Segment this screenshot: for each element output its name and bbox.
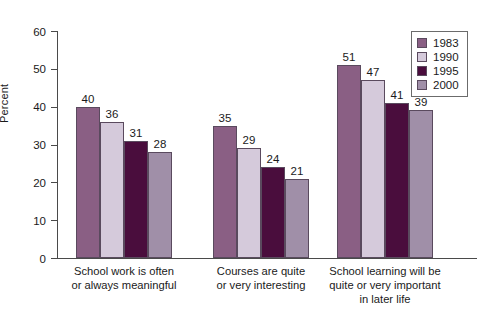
bar-rect <box>285 179 309 258</box>
bar-rect <box>124 141 148 258</box>
bar-2000[interactable]: 21 <box>285 31 309 258</box>
bar-rect <box>385 103 409 258</box>
legend-item-1995[interactable]: 1995 <box>417 64 459 78</box>
bar-rect <box>100 122 124 258</box>
bar-group: 35292421 <box>213 31 309 258</box>
bar-1983[interactable]: 40 <box>76 31 100 258</box>
bar-1995[interactable]: 24 <box>261 31 285 258</box>
y-tick-label: 50 <box>33 63 46 75</box>
y-tick-label: 10 <box>33 215 46 227</box>
bar-1990[interactable]: 47 <box>361 31 385 258</box>
category-label: School learning will bequite or very imp… <box>295 264 475 306</box>
bar-rect <box>76 107 100 258</box>
bar-value-label: 40 <box>82 93 95 105</box>
bar-value-label: 24 <box>267 153 280 165</box>
bar-1995[interactable]: 31 <box>124 31 148 258</box>
legend-item-2000[interactable]: 2000 <box>417 78 459 92</box>
legend-label: 1995 <box>433 65 459 77</box>
bar-value-label: 28 <box>154 138 167 150</box>
legend-label: 2000 <box>433 79 459 91</box>
bar-group: 40363128 <box>76 31 172 258</box>
bar-value-label: 35 <box>219 112 232 124</box>
bar-1983[interactable]: 35 <box>213 31 237 258</box>
y-tick-label: 0 <box>40 253 46 265</box>
x-axis-line <box>57 258 477 259</box>
bar-rect <box>409 110 433 258</box>
y-tick-label: 60 <box>33 26 46 38</box>
bar-1983[interactable]: 51 <box>337 31 361 258</box>
bar-2000[interactable]: 28 <box>148 31 172 258</box>
legend-label: 1983 <box>433 37 459 49</box>
bar-rect <box>237 148 261 258</box>
y-tick-label: 20 <box>33 177 46 189</box>
bar-rect <box>148 152 172 258</box>
legend-label: 1990 <box>433 51 459 63</box>
legend-swatch-icon <box>417 66 427 76</box>
y-axis-title: Percent <box>0 84 10 123</box>
bar-value-label: 39 <box>415 96 428 108</box>
bar-chart: Percent 6050403020100 403631283529242151… <box>0 0 494 321</box>
bar-value-label: 29 <box>243 134 256 146</box>
bar-1995[interactable]: 41 <box>385 31 409 258</box>
category-label-line: School learning will be <box>295 264 475 278</box>
legend-item-1990[interactable]: 1990 <box>417 50 459 64</box>
bar-value-label: 47 <box>367 66 380 78</box>
bar-value-label: 41 <box>391 89 404 101</box>
bar-value-label: 51 <box>343 51 356 63</box>
y-tick-label: 30 <box>33 139 46 151</box>
bar-value-label: 31 <box>130 127 143 139</box>
legend-swatch-icon <box>417 52 427 62</box>
bar-rect <box>361 80 385 258</box>
y-tick-label: 40 <box>33 101 46 113</box>
legend: 1983199019952000 <box>411 31 468 97</box>
bar-value-label: 21 <box>291 165 304 177</box>
bar-rect <box>337 65 361 258</box>
bar-1990[interactable]: 36 <box>100 31 124 258</box>
bar-rect <box>213 126 237 258</box>
bar-1990[interactable]: 29 <box>237 31 261 258</box>
legend-swatch-icon <box>417 38 427 48</box>
category-label-line: quite or very important <box>295 278 475 292</box>
category-label-line: in later life <box>295 292 475 306</box>
bar-value-label: 36 <box>106 108 119 120</box>
y-tick-0: 0 <box>51 258 57 259</box>
legend-item-1983[interactable]: 1983 <box>417 36 459 50</box>
legend-swatch-icon <box>417 80 427 90</box>
bar-rect <box>261 167 285 258</box>
